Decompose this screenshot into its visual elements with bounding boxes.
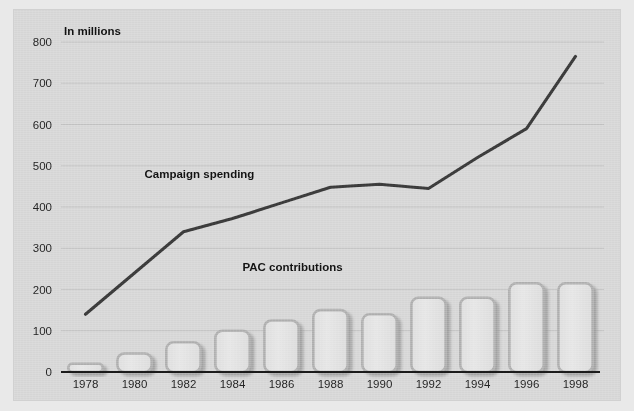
y-axis-tick-label: 100 (33, 325, 52, 337)
y-axis-tick-label: 0 (46, 366, 52, 378)
chart-figure: 0100200300400500600700800 19781980198219… (0, 0, 634, 411)
x-axis-tick-label: 1994 (465, 378, 491, 390)
bar (509, 283, 543, 372)
y-axis-tick-label: 600 (33, 119, 52, 131)
x-axis-tick-label: 1990 (367, 378, 393, 390)
bar (362, 314, 396, 372)
y-axis-tick-label: 700 (33, 77, 52, 89)
bar (558, 283, 592, 372)
x-axis-tick-label: 1996 (514, 378, 540, 390)
annotation-pac-contributions: PAC contributions (243, 261, 343, 273)
bar (411, 298, 445, 372)
y-axis-tick-label: 800 (33, 36, 52, 48)
chart-plate: 0100200300400500600700800 19781980198219… (14, 10, 620, 400)
y-axis-tick-label: 200 (33, 284, 52, 296)
x-axis-tick-label: 1982 (171, 378, 197, 390)
x-axis-tick-label: 1984 (220, 378, 246, 390)
bar-series-pac-contributions (68, 283, 592, 372)
x-axis-tick-label: 1992 (416, 378, 442, 390)
x-axis-tick-label: 1980 (122, 378, 148, 390)
bar (313, 310, 347, 372)
bar (68, 364, 102, 372)
x-axis-tick-label: 1998 (563, 378, 589, 390)
annotation-campaign-spending: Campaign spending (145, 168, 255, 180)
chart-canvas: 0100200300400500600700800 19781980198219… (14, 10, 620, 400)
line-series-campaign-spending (86, 56, 576, 314)
y-axis-tick-labels: 0100200300400500600700800 (33, 36, 52, 378)
bar (215, 331, 249, 372)
y-axis-tick-label: 500 (33, 160, 52, 172)
bar (460, 298, 494, 372)
bar (166, 342, 200, 372)
x-axis-tick-label: 1978 (73, 378, 99, 390)
unit-label: In millions (64, 25, 121, 37)
x-axis-tick-label: 1986 (269, 378, 295, 390)
bar (117, 353, 151, 372)
x-axis-tick-labels: 1978198019821984198619881990199219941996… (73, 378, 589, 390)
y-axis-tick-label: 400 (33, 201, 52, 213)
x-axis-tick-label: 1988 (318, 378, 344, 390)
bar (264, 320, 298, 372)
y-axis-tick-label: 300 (33, 242, 52, 254)
